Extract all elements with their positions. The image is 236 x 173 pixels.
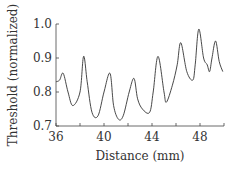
x-tick-label: 44: [144, 130, 160, 144]
y-tick-label: 0.8: [33, 85, 52, 99]
line-chart: 0.70.80.91.0 36404448 Distance (mm) Thre…: [0, 0, 236, 173]
x-tick-label: 40: [96, 130, 111, 144]
threshold-line: [56, 29, 223, 120]
x-tick-label: 48: [192, 130, 207, 144]
x-axis: 36404448: [48, 123, 224, 144]
y-tick-label: 0.9: [33, 51, 52, 65]
y-tick-label: 1.0: [33, 17, 52, 31]
x-tick-label: 36: [48, 130, 63, 144]
y-axis-label: Threshold (normalized): [6, 4, 20, 146]
y-axis: 0.70.80.91.0: [33, 17, 59, 133]
x-axis-label: Distance (mm): [95, 149, 184, 163]
